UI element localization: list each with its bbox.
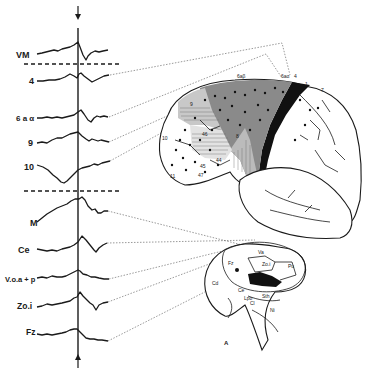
corner-mark: A: [224, 340, 229, 346]
thalamus-section: Cd Ce Pu Fz Zo.i Sth Ni Lpo Va Cl A: [205, 242, 306, 350]
label-ce: Ce: [18, 245, 30, 255]
section-label-va: Va: [258, 249, 264, 255]
trace-m: [37, 197, 108, 222]
trace-4: [37, 73, 109, 82]
section-label-ni: Ni: [270, 307, 275, 313]
brain-lateral-view: 6aβ 6aα 4 1 7 8 9 46 10 45 44 47 11: [159, 73, 361, 238]
label-4: 4: [29, 76, 34, 86]
area-label-8: 8: [236, 133, 239, 139]
trace-ce: [37, 236, 107, 252]
label-fz: Fz: [26, 327, 35, 337]
trace-6aa: [37, 110, 108, 122]
section-label-sth: Sth: [262, 293, 270, 299]
trace-labels: VM 4 6 a α 9 10 M Ce V.o.a + p Zo.i Fz: [5, 50, 38, 337]
section-label-zoi: Zo.i: [262, 261, 270, 267]
area-label-7: 7: [321, 87, 324, 93]
label-vm: VM: [16, 50, 30, 60]
area-label-11: 11: [170, 173, 175, 179]
cortical-traces: [37, 42, 110, 183]
area-label-45: 45: [200, 163, 206, 169]
area-label-9: 9: [190, 101, 193, 107]
label-m: M: [30, 218, 38, 228]
time-zero-marker: [75, 6, 81, 368]
subcortical-traces: [37, 197, 109, 341]
section-label-cl: Cl: [250, 300, 255, 306]
trace-zoi: [37, 292, 108, 310]
area-label-47: 47: [198, 172, 204, 178]
area-label-46: 46: [202, 131, 208, 137]
label-6aa: 6 a α: [16, 114, 34, 123]
label-10: 10: [24, 162, 34, 172]
area-label-6aa: 6aα: [281, 73, 290, 79]
label-9: 9: [28, 138, 33, 148]
section-outline: [205, 244, 306, 350]
down-arrow-icon: [75, 14, 81, 20]
area-label-1: 1: [305, 81, 308, 87]
area-label-4: 4: [294, 73, 297, 79]
label-zoi: Zo.i: [17, 301, 32, 311]
section-label-cd: Cd: [212, 280, 219, 286]
section-label-pu: Pu: [288, 263, 294, 269]
trace-voap: [37, 270, 109, 279]
area-label-44: 44: [216, 157, 222, 163]
figure-canvas: VM 4 6 a α 9 10 M Ce V.o.a + p Zo.i Fz: [0, 0, 373, 373]
trace-vm: [37, 42, 108, 60]
trace-fz: [37, 329, 108, 341]
area-label-6ab: 6aβ: [237, 73, 246, 79]
label-voap: V.o.a + p: [5, 275, 36, 284]
section-label-fz: Fz: [228, 260, 234, 266]
section-label-ce: Ce: [238, 287, 245, 293]
trace-9: [37, 132, 109, 143]
area-label-10: 10: [162, 135, 168, 141]
trace-10: [37, 161, 110, 183]
